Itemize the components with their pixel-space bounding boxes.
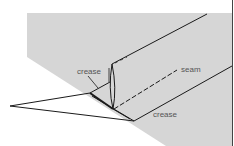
crease-bottom-label: crease	[153, 110, 178, 119]
fabric-surface	[27, 13, 232, 146]
seam-label: seam	[181, 65, 201, 74]
crease-top-label: crease	[77, 67, 102, 76]
fold-diagram: crease seam crease	[0, 0, 234, 146]
